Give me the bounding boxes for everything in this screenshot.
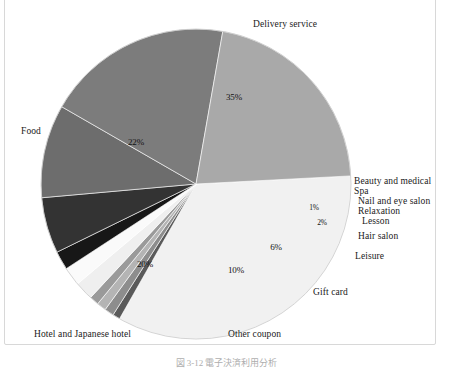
pie-category-label: Gift card — [313, 287, 348, 297]
pie-slice-value: 35% — [226, 92, 242, 102]
pie-slice-value: 1% — [327, 197, 337, 206]
pie-slice-value: 22% — [128, 137, 144, 147]
pie-category-label: Relaxation — [358, 206, 400, 216]
pie-slice-value: 20% — [137, 259, 153, 269]
pie-slice-value: 2% — [317, 218, 327, 227]
pie-chart: 35%0.8%1%1%1%2%2%6%10%20%22% Delivery se… — [0, 0, 453, 348]
pie-slice-value: 1% — [340, 191, 350, 200]
pie-slice-value: 2% — [306, 231, 316, 240]
pie-category-label: Hotel and Japanese hotel — [34, 329, 131, 339]
pie-slice-value: 10% — [228, 265, 244, 275]
pie-category-label: Nail and eye salon — [358, 196, 430, 206]
figure-caption: 図 3-12 電子決済利用分析 — [0, 356, 453, 375]
pie-slice[interactable] — [196, 31, 351, 184]
pie-category-label: Beauty and medical — [354, 176, 431, 186]
pie-category-label: Hair salon — [358, 231, 398, 241]
figure-page: 35%0.8%1%1%1%2%2%6%10%20%22% Delivery se… — [0, 0, 453, 375]
pie-category-label: Leisure — [355, 251, 384, 261]
pie-slices — [41, 29, 351, 339]
pie-category-label: Spa — [354, 186, 369, 196]
pie-slice-value: 1% — [309, 203, 319, 212]
pie-category-label: Delivery service — [253, 19, 317, 29]
pie-slice-value: 6% — [270, 242, 282, 252]
pie-category-label: Other coupon — [228, 329, 281, 339]
pie-chart-svg — [0, 0, 453, 348]
pie-category-label: Lesson — [362, 216, 390, 226]
pie-slice-value: 0.8% — [325, 184, 340, 193]
pie-category-label: Food — [21, 126, 41, 136]
